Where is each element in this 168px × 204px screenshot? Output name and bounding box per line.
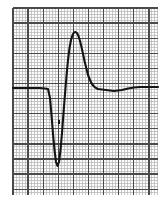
ecg-chart-svg bbox=[0, 0, 168, 204]
ecg-figure bbox=[0, 0, 168, 204]
trace-notch-marker bbox=[58, 120, 61, 124]
